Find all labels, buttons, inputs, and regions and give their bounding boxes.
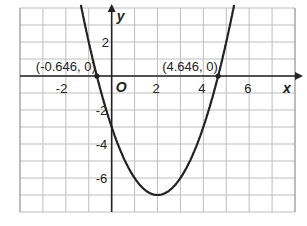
svg-text:6: 6 <box>244 81 251 96</box>
svg-text:4: 4 <box>198 81 205 96</box>
parabola-graph: -22462-2-4-6 (-0.646, 0)(4.646, 0) x y O <box>0 0 307 226</box>
svg-text:2: 2 <box>153 81 160 96</box>
svg-text:-4: -4 <box>96 137 108 152</box>
axes <box>20 4 303 212</box>
svg-text:-2: -2 <box>56 81 68 96</box>
x-axis-label: x <box>282 80 292 96</box>
y-axis-label: y <box>116 8 126 24</box>
svg-text:-2: -2 <box>96 103 108 118</box>
svg-text:(4.646, 0): (4.646, 0) <box>162 59 218 74</box>
svg-text:-6: -6 <box>96 171 108 186</box>
origin-label: O <box>116 79 127 95</box>
svg-text:(-0.646, 0): (-0.646, 0) <box>36 59 96 74</box>
grid <box>20 8 295 212</box>
svg-text:2: 2 <box>102 35 109 50</box>
